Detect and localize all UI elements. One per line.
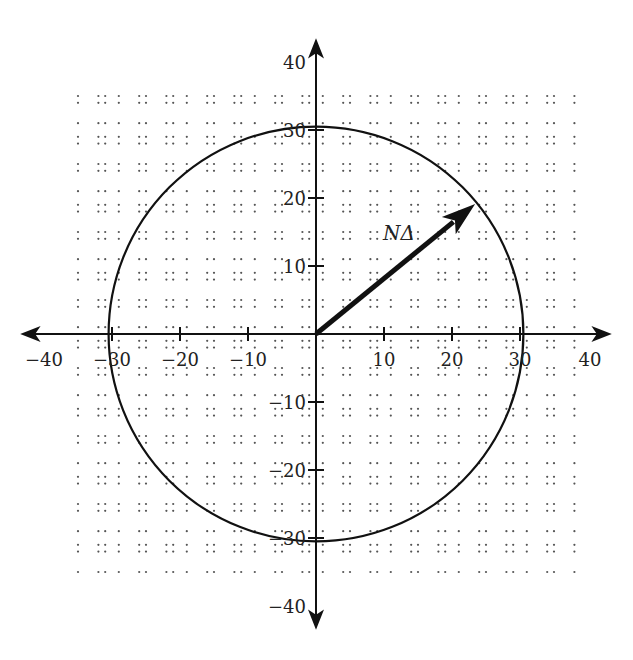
grid-dot — [172, 340, 174, 342]
grid-dot — [145, 204, 147, 206]
grid-dot — [478, 102, 480, 104]
grid-dot — [104, 136, 106, 138]
grid-dot — [369, 211, 371, 213]
grid-dot — [573, 102, 575, 104]
grid-dot — [437, 143, 439, 145]
grid-dot — [104, 279, 106, 281]
grid-dot — [97, 143, 99, 145]
grid-dot — [444, 503, 446, 505]
grid-dot — [138, 122, 140, 124]
grid-dot — [240, 272, 242, 274]
grid-dot — [417, 530, 419, 532]
grid-dot — [172, 143, 174, 145]
grid-dot — [444, 190, 446, 192]
grid-dot — [322, 408, 324, 410]
grid-dot — [274, 163, 276, 165]
grid-dot — [104, 476, 106, 478]
grid-dot — [573, 551, 575, 553]
grid-dot — [444, 102, 446, 104]
grid-dot — [186, 530, 188, 532]
grid-dot — [505, 258, 507, 260]
grid-dot — [77, 367, 79, 369]
grid-dot — [342, 510, 344, 512]
grid-dot — [390, 408, 392, 410]
grid-dot — [274, 279, 276, 281]
grid-dot — [526, 163, 528, 165]
grid-dot — [165, 306, 167, 308]
grid-dot — [369, 163, 371, 165]
grid-dot — [349, 462, 351, 464]
grid-dot — [308, 204, 310, 206]
grid-dot — [444, 163, 446, 165]
grid-dot — [308, 408, 310, 410]
grid-dot — [138, 551, 140, 553]
grid-dot — [77, 340, 79, 342]
grid-dot — [254, 279, 256, 281]
grid-dot — [390, 530, 392, 532]
grid-dot — [281, 347, 283, 349]
grid-dot — [458, 122, 460, 124]
grid-dot — [376, 551, 378, 553]
grid-dot — [213, 374, 215, 376]
grid-dot — [97, 326, 99, 328]
grid-dot — [526, 122, 528, 124]
grid-dot — [281, 95, 283, 97]
grid-dot — [104, 483, 106, 485]
grid-dot — [437, 442, 439, 444]
grid-dot — [172, 530, 174, 532]
grid-dot — [206, 415, 208, 417]
grid-dot — [233, 190, 235, 192]
grid-dot — [478, 272, 480, 274]
grid-dot — [145, 170, 147, 172]
grid-dot — [410, 415, 412, 417]
grid-dot — [233, 503, 235, 505]
grid-dot — [369, 102, 371, 104]
grid-dot — [349, 163, 351, 165]
grid-dot — [240, 476, 242, 478]
grid-dot — [213, 190, 215, 192]
grid-dot — [145, 503, 147, 505]
grid-dot — [322, 299, 324, 301]
grid-dot — [485, 483, 487, 485]
grid-dot — [172, 279, 174, 281]
grid-dot — [206, 374, 208, 376]
grid-dot — [172, 306, 174, 308]
grid-dot — [410, 136, 412, 138]
grid-dot — [444, 136, 446, 138]
grid-dot — [485, 503, 487, 505]
grid-dot — [145, 571, 147, 573]
grid-dot — [376, 326, 378, 328]
grid-dot — [390, 143, 392, 145]
grid-dot — [240, 306, 242, 308]
grid-dot — [485, 170, 487, 172]
grid-dot — [301, 442, 303, 444]
grid-dot — [274, 340, 276, 342]
grid-dot — [97, 483, 99, 485]
grid-dot — [553, 143, 555, 145]
grid-dot — [369, 510, 371, 512]
grid-dot — [186, 238, 188, 240]
grid-dot — [505, 272, 507, 274]
grid-dot — [369, 571, 371, 573]
grid-dot — [376, 483, 378, 485]
grid-dot — [206, 95, 208, 97]
grid-dot — [308, 306, 310, 308]
grid-dot — [274, 190, 276, 192]
grid-dot — [505, 435, 507, 437]
grid-dot — [349, 544, 351, 546]
grid-dot — [349, 551, 351, 553]
grid-dot — [118, 95, 120, 97]
grid-dot — [233, 163, 235, 165]
grid-dot — [233, 551, 235, 553]
grid-dot — [281, 231, 283, 233]
grid-dot — [240, 95, 242, 97]
grid-dot — [505, 143, 507, 145]
grid-dot — [410, 272, 412, 274]
grid-dot — [437, 435, 439, 437]
grid-dot — [118, 299, 120, 301]
grid-dot — [349, 258, 351, 260]
grid-dot — [458, 551, 460, 553]
grid-dot — [118, 238, 120, 240]
grid-dot — [417, 163, 419, 165]
grid-dot — [145, 374, 147, 376]
